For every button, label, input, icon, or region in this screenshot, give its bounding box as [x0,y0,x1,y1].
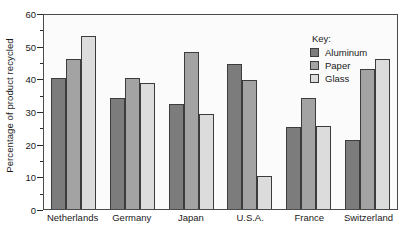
x-axis-tick-labels: NetherlandsGermanyJapanU.S.A.FranceSwitz… [43,212,398,232]
legend-item: Paper [310,60,405,71]
x-tick-label: Netherlands [43,212,102,232]
x-tick-label: Switzerland [339,212,398,232]
x-tick-label: U.S.A. [221,212,280,232]
bar [242,80,257,209]
y-tick-label: 10 [25,172,36,183]
y-tick-label: 40 [25,74,36,85]
bar [257,176,272,209]
legend-swatch-icon [310,61,319,70]
bar [140,83,155,209]
bar [360,69,375,209]
y-tick-label: 60 [25,9,36,20]
bar [286,127,301,209]
y-axis-title: Percentage of product recycled [0,0,18,210]
legend-swatch-icon [310,74,319,83]
bar [184,52,199,209]
y-tick-label: 50 [25,41,36,52]
bar [169,104,184,209]
bar [199,114,214,209]
legend-label: Paper [325,60,350,71]
bar-group [162,15,221,209]
bar [227,64,242,209]
bar [316,126,331,209]
legend-label: Glass [325,73,349,84]
bar [81,36,96,209]
y-tick-label: 30 [25,107,36,118]
y-tick-major [37,210,43,211]
bar-group [220,15,279,209]
bar [301,98,316,209]
y-axis-tick-marks [36,14,43,210]
y-tick-label: 20 [25,139,36,150]
y-axis-title-text: Percentage of product recycled [4,38,15,173]
plot-area: Key: AluminumPaperGlass [43,14,398,210]
legend-item: Aluminum [310,47,405,58]
bar [345,140,360,209]
bar-group [44,15,103,209]
bar-chart: Percentage of product recycled 010203040… [0,0,405,245]
bar [110,98,125,209]
x-tick-label: France [280,212,339,232]
legend-rows: AluminumPaperGlass [310,47,405,84]
bar-group [103,15,162,209]
bar [51,78,66,209]
legend-label: Aluminum [325,47,367,58]
legend-title: Key: [312,33,405,44]
legend: Key: AluminumPaperGlass [306,31,405,88]
bar [66,59,81,209]
x-tick-label: Japan [161,212,220,232]
legend-swatch-icon [310,48,319,57]
x-tick-label: Germany [102,212,161,232]
bar [125,78,140,209]
legend-item: Glass [310,73,405,84]
